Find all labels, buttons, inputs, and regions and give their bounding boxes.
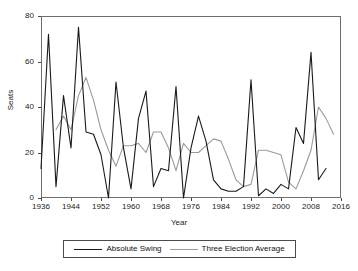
- y-tick-label: 20: [12, 149, 34, 157]
- y-axis-label: Seats: [7, 70, 15, 130]
- x-tick-label: 2000: [266, 203, 296, 211]
- chart-figure: 020406080 Seats 193619441952196019681976…: [0, 0, 358, 271]
- y-tick-label: 80: [12, 12, 34, 20]
- x-tick-label: 2008: [296, 203, 326, 211]
- y-tick-label: 0: [12, 194, 34, 202]
- x-tick-label: 1976: [176, 203, 206, 211]
- x-tick-mark: [221, 198, 222, 201]
- x-tick-mark: [101, 198, 102, 201]
- x-tick-mark: [341, 198, 342, 201]
- chart-legend: Absolute Swing Three Election Average: [63, 240, 296, 258]
- legend-entry-three-election-average: Three Election Average: [166, 245, 289, 253]
- legend-swatch-three-election-average: [170, 249, 198, 250]
- x-tick-mark: [251, 198, 252, 201]
- y-tick-mark: [38, 107, 41, 108]
- x-tick-mark: [71, 198, 72, 201]
- legend-label-three-election-average: Three Election Average: [202, 245, 285, 253]
- x-tick-mark: [161, 198, 162, 201]
- y-tick-mark: [38, 153, 41, 154]
- x-tick-label: 1944: [56, 203, 86, 211]
- line-absolute-swing: [41, 27, 326, 198]
- x-tick-label: 1992: [236, 203, 266, 211]
- y-tick-mark: [38, 62, 41, 63]
- x-axis-label: Year: [0, 219, 358, 227]
- x-tick-label: 1984: [206, 203, 236, 211]
- legend-swatch-absolute-swing: [74, 249, 102, 250]
- x-tick-mark: [191, 198, 192, 201]
- y-tick-label: 60: [12, 58, 34, 66]
- x-tick-label: 1936: [26, 203, 56, 211]
- x-tick-label: 1968: [146, 203, 176, 211]
- y-tick-mark: [38, 16, 41, 17]
- plot-lines: [41, 16, 341, 198]
- x-tick-label: 1952: [86, 203, 116, 211]
- x-tick-mark: [131, 198, 132, 201]
- x-tick-mark: [281, 198, 282, 201]
- y-tick-label: 40: [12, 103, 34, 111]
- x-tick-mark: [311, 198, 312, 201]
- x-tick-mark: [41, 198, 42, 201]
- legend-entry-absolute-swing: Absolute Swing: [70, 245, 165, 253]
- legend-label-absolute-swing: Absolute Swing: [106, 245, 161, 253]
- x-tick-label: 2016: [326, 203, 356, 211]
- x-tick-label: 1960: [116, 203, 146, 211]
